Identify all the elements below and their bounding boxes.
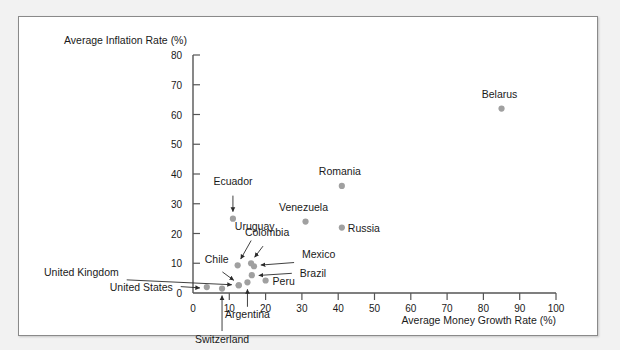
point-label-colombia: Colombia [245, 226, 290, 238]
leader-line [241, 241, 251, 260]
data-point-united-kingdom [236, 282, 242, 288]
x-tick-label-80: 80 [478, 303, 490, 314]
data-point-argentina [244, 279, 250, 285]
data-point-peru [263, 277, 269, 283]
point-label-chile: Chile [205, 253, 229, 265]
point-label-russia: Russia [348, 222, 380, 234]
point-label-romania: Romania [319, 165, 361, 177]
leader-line [261, 263, 294, 266]
y-tick-label-30: 30 [171, 199, 183, 210]
data-point-romania [339, 183, 345, 189]
x-tick-label-90: 90 [514, 303, 526, 314]
x-tick-label-70: 70 [442, 303, 454, 314]
point-label-switzerland: Switzerland [195, 333, 249, 345]
y-axis-title: Average Inflation Rate (%) [64, 34, 187, 46]
point-label-mexico: Mexico [302, 248, 335, 260]
data-point-russia [339, 224, 345, 230]
point-label-ecuador: Ecuador [213, 175, 253, 187]
scatter-plot: 010203040506070809010001020304050607080 … [0, 0, 620, 350]
data-point-united-states [204, 284, 210, 290]
y-tick-label-10: 10 [171, 258, 183, 269]
point-label-belarus: Belarus [482, 88, 518, 100]
y-tick-label-70: 70 [171, 80, 183, 91]
x-tick-label-100: 100 [548, 303, 565, 314]
x-tick-label-60: 60 [405, 303, 417, 314]
point-label-united-states: United States [110, 281, 173, 293]
y-tick-label-50: 50 [171, 139, 183, 150]
point-label-brazil: Brazil [300, 267, 326, 279]
y-tick-label-0: 0 [176, 288, 182, 299]
point-label-peru: Peru [273, 275, 295, 287]
data-point-brazil [249, 272, 255, 278]
x-tick-label-30: 30 [296, 303, 308, 314]
y-tick-label-40: 40 [171, 169, 183, 180]
data-point-switzerland [219, 285, 225, 291]
y-tick-label-60: 60 [171, 110, 183, 121]
point-label-united-kingdom: United Kingdom [44, 266, 119, 278]
data-point-venezuela [302, 219, 308, 225]
x-tick-label-50: 50 [369, 303, 381, 314]
x-tick-label-0: 0 [190, 303, 196, 314]
point-label-venezuela: Venezuela [279, 201, 328, 213]
data-point-uruguay [235, 262, 241, 268]
x-tick-label-40: 40 [333, 303, 345, 314]
leader-line [255, 246, 263, 257]
y-tick-label-80: 80 [171, 50, 183, 61]
x-axis-title: Average Money Growth Rate (%) [402, 314, 556, 326]
data-point-mexico [251, 263, 257, 269]
y-tick-label-20: 20 [171, 229, 183, 240]
point-label-argentina: Argentina [225, 308, 270, 320]
leader-line [222, 272, 233, 280]
data-point-belarus [498, 105, 504, 111]
leader-line [181, 287, 200, 288]
